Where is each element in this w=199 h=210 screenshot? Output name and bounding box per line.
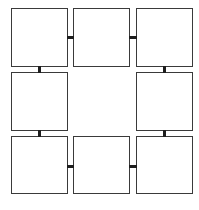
node-middle-right [136,72,193,131]
node-top-center [73,8,130,67]
node-bottom-right [136,136,193,194]
connector-bottom-left-bottom-center [67,165,74,168]
node-top-left [11,8,68,67]
node-top-right [136,8,193,67]
connector-top-left-top-center [67,36,74,39]
node-bottom-center [73,136,130,194]
node-bottom-left [11,136,68,194]
connector-top-center-top-right [129,36,137,39]
connector-bottom-center-bottom-right [129,165,137,168]
connector-top-left-middle-left [38,66,41,73]
connector-middle-left-bottom-left [38,130,41,137]
connector-top-right-middle-right [163,66,166,73]
node-middle-left [11,72,68,131]
connector-middle-right-bottom-right [163,130,166,137]
